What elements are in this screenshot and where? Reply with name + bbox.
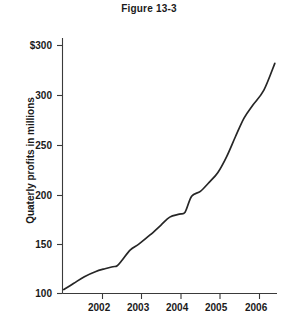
x-tick-label-2005: 2005 bbox=[205, 302, 228, 313]
data-series-line bbox=[64, 63, 275, 289]
y-tick-label-200: 200 bbox=[35, 190, 52, 201]
y-tick-label-100: 100 bbox=[35, 288, 52, 299]
x-tick-label-2002: 2002 bbox=[88, 302, 111, 313]
x-tick-label-2004: 2004 bbox=[166, 302, 189, 313]
x-tick-label-2006: 2006 bbox=[245, 302, 268, 313]
y-tick-label-350: $300 bbox=[30, 40, 53, 51]
line-chart-plot: $300 300 250 200 150 100 2002 2003 2004 … bbox=[0, 0, 298, 327]
y-tick-label-300: 300 bbox=[35, 90, 52, 101]
y-tick-label-250: 250 bbox=[35, 140, 52, 151]
chart-page: Figure 13-3 Quaterly profits in millions… bbox=[0, 0, 298, 327]
y-tick-label-150: 150 bbox=[35, 239, 52, 250]
x-tick-label-2003: 2003 bbox=[127, 302, 150, 313]
